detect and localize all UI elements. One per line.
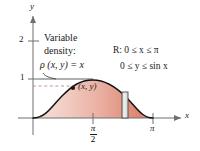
density-label: density:	[44, 46, 76, 57]
sample-point-label: (x, y)	[78, 82, 96, 91]
figure-container: y x 2 1 π 2 π Variable density: ρ (x, y)…	[0, 0, 200, 151]
x-axis-label: x	[185, 111, 189, 120]
x-tick-pi-over-2-numerator: π	[86, 124, 100, 133]
density-formula: ρ (x, y) = x	[40, 60, 84, 71]
sine-region-diagram	[0, 0, 200, 151]
density-leader-line	[43, 73, 56, 79]
variable-label: Variable	[44, 33, 77, 44]
sample-point-dot	[71, 86, 75, 90]
region-bounds-x: R: 0 ≤ x ≤ π	[113, 46, 159, 56]
y-tick-label-2: 2	[19, 35, 24, 44]
x-axis-arrow	[174, 115, 181, 121]
y-axis-label: y	[30, 2, 34, 11]
y-tick-label-1: 1	[20, 73, 25, 82]
x-tick-label-pi: π	[150, 124, 155, 133]
region-bounds-y: 0 ≤ y ≤ sin x	[120, 62, 168, 72]
y-axis-arrow	[30, 16, 36, 23]
x-tick-label-pi-over-2: π 2	[86, 124, 100, 144]
vertical-strip	[122, 92, 128, 118]
x-tick-pi-over-2-denominator: 2	[86, 135, 100, 144]
